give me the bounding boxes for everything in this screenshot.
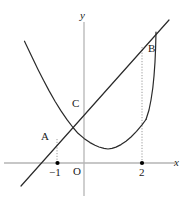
x-axis-label: x [174,157,179,168]
x-tick-label-minus-one: −1 [49,167,61,178]
tick-dot-minus-one [55,161,59,165]
straight-line [21,20,169,186]
graph-figure: y x O −1 2 A B C [0,0,188,206]
graph-canvas [0,0,188,206]
x-tick-label-two: 2 [139,167,145,178]
tick-dot-two [140,161,144,165]
point-label-c: C [72,98,79,109]
point-label-a: A [41,131,49,142]
point-label-b: B [148,43,155,54]
y-axis-label: y [80,10,85,21]
origin-label: O [73,166,81,177]
